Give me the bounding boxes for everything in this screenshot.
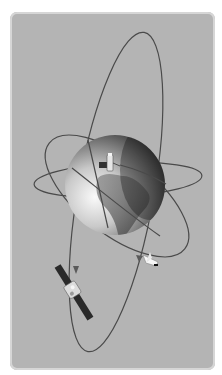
orbit-direction-arrow-2 <box>136 255 143 262</box>
earth-globe <box>65 120 180 238</box>
satellite-solar-panels <box>52 263 96 322</box>
orbit-illustration <box>0 0 222 375</box>
orbit-direction-arrow <box>73 266 79 274</box>
